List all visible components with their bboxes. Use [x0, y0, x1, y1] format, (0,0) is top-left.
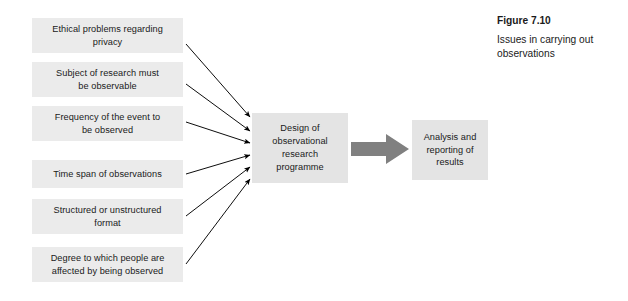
outcome-box-analysis-reporting: Analysis and reporting of results — [412, 120, 488, 180]
center-label: Design of observational research program… — [272, 122, 327, 173]
factor-label: Degree to which people are affected by b… — [51, 252, 165, 277]
figure-number: Figure 7.10 — [497, 14, 621, 28]
arrow-from-factor-3 — [186, 122, 250, 143]
factor-label: Ethical problems regarding privacy — [52, 23, 163, 48]
center-box-design-of-programme: Design of observational research program… — [252, 113, 348, 183]
factor-label: Subject of research must be observable — [56, 67, 159, 92]
figure-canvas: Ethical problems regarding privacy Subje… — [0, 0, 628, 301]
converging-arrows — [186, 44, 250, 264]
figure-caption: Figure 7.10 Issues in carrying out obser… — [497, 14, 621, 60]
factor-box-degree-affected: Degree to which people are affected by b… — [32, 247, 183, 282]
factor-box-subject-observable: Subject of research must be observable — [32, 62, 183, 97]
factor-box-structured-format: Structured or unstructured format — [32, 199, 183, 234]
arrow-from-factor-2 — [186, 84, 250, 131]
arrow-from-factor-6 — [186, 179, 250, 264]
arrow-from-factor-5 — [186, 167, 250, 216]
arrow-from-factor-1 — [186, 44, 250, 117]
factor-label: Structured or unstructured format — [53, 204, 161, 229]
factor-box-ethical-problems: Ethical problems regarding privacy — [32, 18, 183, 53]
factor-box-time-span: Time span of observations — [32, 160, 183, 188]
figure-title: Issues in carrying out observations — [497, 33, 621, 60]
factor-label: Time span of observations — [53, 168, 162, 180]
outcome-label: Analysis and reporting of results — [424, 131, 477, 169]
factor-label: Frequency of the event to be observed — [55, 111, 160, 136]
thick-gray-arrow — [351, 134, 409, 164]
arrow-from-factor-4 — [186, 155, 250, 174]
factor-box-frequency-of-event: Frequency of the event to be observed — [32, 106, 183, 141]
